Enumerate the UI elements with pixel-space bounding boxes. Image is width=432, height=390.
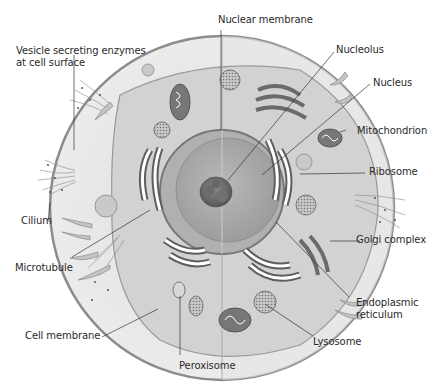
label-microtubule: Microtubule <box>15 262 73 274</box>
label-vesicle-line2: at cell surface <box>16 57 85 69</box>
label-cilium: Cilium <box>21 215 52 227</box>
label-peroxisome: Peroxisome <box>179 360 235 372</box>
label-nuclear-membrane: Nuclear membrane <box>218 14 313 26</box>
label-lysosome: Lysosome <box>313 336 361 348</box>
label-nucleus: Nucleus <box>373 77 412 89</box>
label-vesicle-line1: Vesicle secreting enzymes <box>16 45 146 57</box>
nucleolus <box>200 177 232 207</box>
label-ribosome: Ribosome <box>369 166 418 178</box>
cell-diagram: Nuclear membrane Vesicle secreting enzym… <box>0 0 432 390</box>
peroxisome <box>173 282 185 298</box>
label-endoplasmic-line1: Endoplasmic <box>356 297 419 309</box>
label-golgi-complex: Golgi complex <box>356 234 426 246</box>
label-endoplasmic-line2: reticulum <box>356 309 403 321</box>
label-mitochondrion: Mitochondrion <box>357 125 427 137</box>
label-cell-membrane: Cell membrane <box>25 330 100 342</box>
label-nucleolus: Nucleolus <box>336 44 384 56</box>
